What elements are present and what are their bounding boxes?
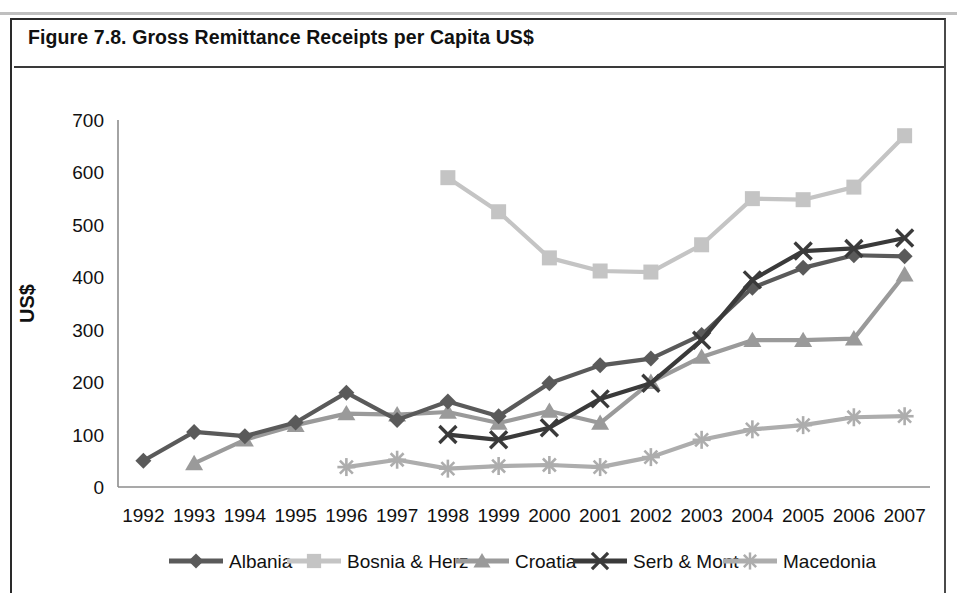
- y-tick-label: 200: [72, 372, 104, 393]
- y-tick-label: 700: [72, 110, 104, 131]
- data-point-asterisk-marker: [388, 451, 406, 469]
- x-tick-label: 1999: [477, 505, 519, 526]
- data-point-square-marker: [846, 180, 861, 195]
- data-point-square-marker: [897, 128, 912, 143]
- legend-label: Bosnia & Herz: [347, 551, 468, 572]
- x-tick-label: 1994: [224, 505, 267, 526]
- data-point-asterisk-marker: [743, 420, 761, 438]
- chart-area: 0100200300400500600700US$199219931994199…: [0, 70, 957, 590]
- x-tick-label: 1996: [325, 505, 367, 526]
- data-point-asterisk-marker: [642, 448, 660, 466]
- series-croatia: [185, 266, 914, 470]
- y-axis-title: US$: [16, 284, 38, 323]
- legend-item-croatia[interactable]: Croatia: [455, 551, 577, 572]
- data-point-diamond-marker: [135, 453, 151, 469]
- y-axis-tick-labels: 0100200300400500600700: [72, 110, 104, 498]
- x-axis-tick-labels: 1992199319941995199619971998199920002001…: [122, 505, 926, 526]
- data-point-asterisk-marker: [845, 408, 863, 426]
- legend-label: Croatia: [515, 551, 577, 572]
- data-point-asterisk-marker: [540, 456, 558, 474]
- x-tick-label: 1993: [173, 505, 215, 526]
- x-tick-label: 2005: [782, 505, 824, 526]
- data-point-diamond-marker: [795, 260, 811, 276]
- data-point-asterisk-marker: [693, 431, 711, 449]
- data-point-asterisk-marker: [794, 416, 812, 434]
- legend-item-albania[interactable]: Albania: [169, 551, 293, 572]
- legend-label: Macedonia: [783, 551, 876, 572]
- page-top-edge: [0, 12, 957, 15]
- data-point-diamond-marker: [592, 357, 608, 373]
- x-tick-label: 1998: [427, 505, 469, 526]
- data-point-asterisk-marker: [490, 457, 508, 475]
- x-tick-label: 2006: [833, 505, 875, 526]
- y-tick-label: 400: [72, 267, 104, 288]
- data-point-diamond-marker: [897, 248, 913, 264]
- data-point-square-marker: [440, 170, 455, 185]
- data-point-diamond-marker: [186, 424, 202, 440]
- data-point-square-marker: [593, 263, 608, 278]
- line-chart: 0100200300400500600700US$199219931994199…: [0, 70, 957, 590]
- y-tick-label: 300: [72, 320, 104, 341]
- x-tick-label: 2002: [630, 505, 672, 526]
- y-tick-label: 500: [72, 215, 104, 236]
- data-point-diamond-marker: [188, 553, 203, 568]
- x-tick-label: 2007: [883, 505, 925, 526]
- legend-item-macedonia[interactable]: Macedonia: [723, 551, 876, 572]
- y-tick-label: 0: [93, 477, 104, 498]
- x-tick-label: 2001: [579, 505, 621, 526]
- figure-container: Figure 7.8. Gross Remittance Receipts pe…: [0, 0, 957, 597]
- figure-title: Figure 7.8. Gross Remittance Receipts pe…: [28, 26, 534, 49]
- data-point-square-marker: [796, 192, 811, 207]
- data-point-square-marker: [542, 250, 557, 265]
- data-point-asterisk-marker: [896, 407, 914, 425]
- legend-item-serb-mont[interactable]: Serb & Mont: [573, 551, 739, 572]
- data-point-square-marker: [491, 204, 506, 219]
- data-point-square-marker: [745, 191, 760, 206]
- legend-label: Albania: [229, 551, 293, 572]
- data-point-asterisk-marker: [591, 458, 609, 476]
- legend-item-bosnia-herz[interactable]: Bosnia & Herz: [287, 551, 468, 572]
- x-tick-label: 2004: [731, 505, 774, 526]
- x-tick-label: 1992: [122, 505, 164, 526]
- data-point-asterisk-marker: [741, 552, 758, 569]
- series-macedonia: [337, 407, 913, 477]
- data-point-triangle-marker: [896, 266, 914, 281]
- title-divider-rule: [14, 66, 944, 68]
- data-point-square-marker: [643, 265, 658, 280]
- chart-legend: AlbaniaBosnia & HerzCroatiaSerb & MontMa…: [169, 551, 876, 572]
- data-point-triangle-marker: [540, 402, 558, 417]
- data-point-asterisk-marker: [439, 460, 457, 478]
- x-tick-label: 1997: [376, 505, 418, 526]
- x-tick-label: 2003: [680, 505, 722, 526]
- data-point-diamond-marker: [440, 394, 456, 410]
- y-tick-label: 600: [72, 162, 104, 183]
- y-tick-label: 100: [72, 425, 104, 446]
- data-point-diamond-marker: [643, 351, 659, 367]
- data-point-asterisk-marker: [337, 458, 355, 476]
- data-point-square-marker: [307, 554, 321, 568]
- data-point-square-marker: [694, 237, 709, 252]
- x-tick-label: 2000: [528, 505, 570, 526]
- x-tick-label: 1995: [274, 505, 316, 526]
